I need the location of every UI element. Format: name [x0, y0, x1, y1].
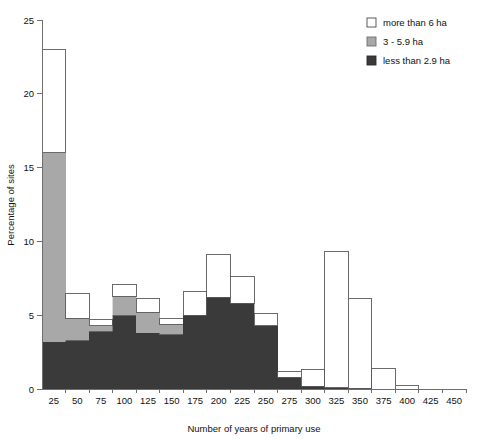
y-tick-label: 15: [23, 162, 34, 173]
bar-group-200: [207, 255, 231, 389]
bar-segment: [254, 326, 278, 389]
bar-group-350: [348, 298, 372, 389]
bar-group-300: [301, 370, 325, 389]
bar-segment: [160, 324, 184, 334]
bar-group-50: [66, 293, 90, 389]
bar-segment: [183, 315, 207, 389]
y-tick-label: 20: [23, 88, 34, 99]
bar-group-100: [113, 284, 137, 389]
bar-segment: [66, 340, 90, 389]
bar-segment: [113, 284, 137, 296]
x-tick-label: 300: [305, 395, 321, 406]
bar-segment: [183, 292, 207, 316]
bar-segment: [230, 303, 254, 389]
bar-segment: [207, 297, 231, 389]
bar-group-275: [278, 371, 302, 389]
x-tick-label: 75: [96, 395, 107, 406]
bar-segment: [254, 314, 278, 326]
legend-label: 3 - 5.9 ha: [383, 36, 424, 47]
bar-group-175: [183, 292, 207, 389]
bar-segment: [66, 293, 90, 318]
chart-container: 0510152025 25507510012515017520022525027…: [0, 0, 478, 440]
bar-group-325: [325, 252, 349, 389]
bar-segment: [278, 377, 302, 389]
x-tick-label: 175: [187, 395, 203, 406]
bar-segment: [348, 298, 372, 388]
bar-segment: [42, 342, 66, 389]
bar-group-25: [42, 50, 66, 389]
bar-segment: [207, 255, 231, 298]
bar-segment: [136, 333, 160, 389]
legend-swatch: [367, 18, 376, 27]
x-tick-label: 375: [376, 395, 392, 406]
bar-segment: [66, 318, 90, 340]
bar-segment: [301, 370, 325, 386]
legend-label: more than 6 ha: [383, 17, 448, 28]
bar-segment: [160, 318, 184, 324]
x-tick-label: 125: [140, 395, 156, 406]
x-tick-label: 275: [281, 395, 297, 406]
x-axis-title: Number of years of primary use: [187, 423, 320, 434]
x-tick-label: 350: [352, 395, 368, 406]
y-tick-label: 10: [23, 236, 34, 247]
y-tick-label: 5: [29, 310, 34, 321]
bar-segment: [160, 334, 184, 389]
bar-segment: [89, 331, 113, 389]
x-tick-label: 250: [258, 395, 274, 406]
bar-group-150: [160, 318, 184, 389]
bar-segment: [89, 326, 113, 332]
legend-swatch: [367, 37, 376, 46]
x-tick-label: 50: [72, 395, 83, 406]
histogram-chart: 0510152025 25507510012515017520022525027…: [0, 0, 478, 440]
bar-segment: [395, 385, 419, 389]
y-tick-label: 25: [23, 15, 34, 26]
bar-segment: [113, 315, 137, 389]
x-tick-label: 450: [446, 395, 462, 406]
x-tick-label: 100: [117, 395, 133, 406]
x-tick-label: 425: [423, 395, 439, 406]
x-tick-label: 325: [329, 395, 345, 406]
bar-segment: [278, 371, 302, 377]
bar-segment: [89, 320, 113, 326]
bar-segment: [325, 252, 349, 388]
bar-group-400: [395, 385, 419, 389]
bar-group-125: [136, 299, 160, 389]
bar-group-225: [230, 277, 254, 389]
bar-segment: [136, 312, 160, 333]
bar-segment: [42, 50, 66, 153]
legend-swatch: [367, 56, 376, 65]
bar-group-250: [254, 314, 278, 389]
bar-segment: [372, 368, 396, 389]
x-tick-label: 150: [164, 395, 180, 406]
y-tick-label: 0: [29, 384, 34, 395]
bar-segment: [42, 153, 66, 342]
bar-segment: [230, 277, 254, 304]
bar-group-75: [89, 320, 113, 389]
x-tick-label: 225: [234, 395, 250, 406]
legend-label: less than 2.9 ha: [383, 55, 451, 66]
bar-group-375: [372, 368, 396, 389]
x-tick-label: 400: [399, 395, 415, 406]
y-axis-title: Percentage of sites: [5, 164, 16, 246]
x-tick-label: 200: [211, 395, 227, 406]
x-tick-label: 25: [48, 395, 59, 406]
bar-segment: [113, 296, 137, 315]
bar-segment: [136, 299, 160, 312]
